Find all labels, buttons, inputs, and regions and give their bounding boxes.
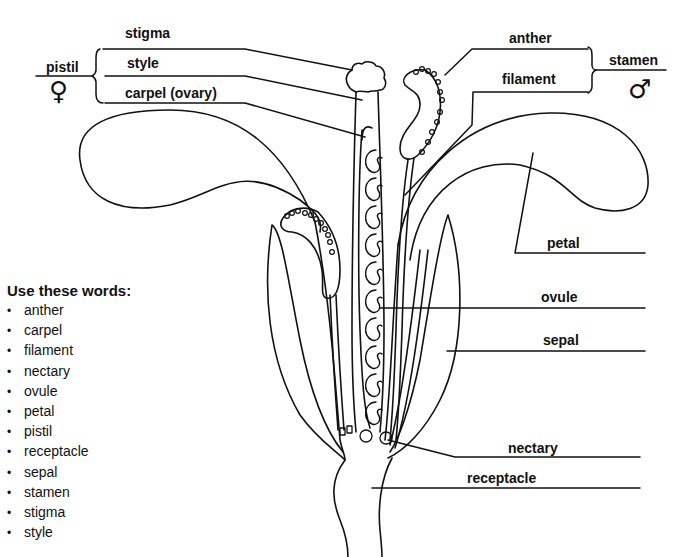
word-item: anther [7, 301, 131, 321]
label-sepal: sepal [543, 332, 579, 348]
word-item: stigma [7, 503, 131, 523]
left-petal [80, 110, 321, 232]
left-sepal [268, 225, 345, 460]
label-receptacle: receptacle [467, 470, 536, 486]
label-ovule: ovule [541, 289, 578, 305]
label-style: style [127, 55, 159, 71]
label-nectary: nectary [508, 440, 558, 456]
male-symbol-icon: ♂ [628, 76, 651, 102]
word-item: sepal [7, 463, 131, 483]
word-item: ovule [7, 382, 131, 402]
word-item: stamen [7, 483, 131, 503]
word-list: anther carpel filament nectary ovule pet… [7, 301, 131, 543]
word-item: pistil [7, 422, 131, 442]
word-item: carpel [7, 321, 131, 341]
nectaries [340, 426, 392, 444]
label-pistil: pistil [46, 59, 79, 75]
word-bank: Use these words: anther carpel filament … [7, 282, 131, 543]
female-symbol-icon: ♀ [49, 78, 68, 104]
label-carpel: carpel (ovary) [125, 85, 217, 101]
style-column [352, 92, 356, 432]
right-anther [400, 70, 440, 159]
word-item: petal [7, 402, 131, 422]
stigma-shape [346, 62, 385, 92]
word-item: nectary [7, 362, 131, 382]
word-item: filament [7, 341, 131, 361]
right-petal [398, 113, 648, 260]
label-filament: filament [502, 71, 556, 87]
word-bank-heading: Use these words: [7, 282, 131, 299]
label-stamen: stamen [609, 52, 658, 68]
word-item: style [7, 523, 131, 543]
label-petal: petal [547, 235, 580, 251]
word-item: receptacle [7, 442, 131, 462]
receptacle-stem [334, 460, 348, 557]
ovules [366, 150, 382, 424]
label-stigma: stigma [125, 25, 170, 41]
label-anther: anther [509, 30, 552, 46]
